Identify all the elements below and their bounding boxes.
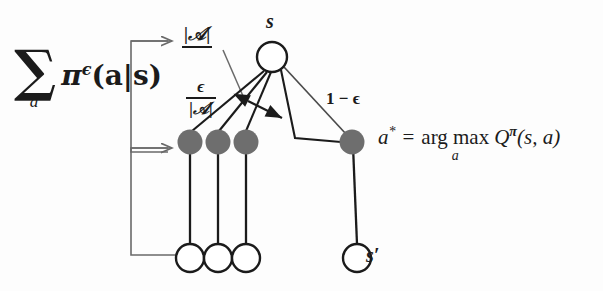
action-node-1[interactable] xyxy=(178,130,203,155)
argmax-operator-label: arg max xyxy=(421,128,489,148)
sigma-icon: ∑ xyxy=(14,48,54,94)
fraction-bar xyxy=(182,46,212,48)
label-epsilon-over-cardinality: ϵ |𝒜| xyxy=(186,78,216,119)
a-symbol: a xyxy=(378,125,389,149)
label-next-state: s′ xyxy=(366,244,379,267)
next-state-node-1[interactable] xyxy=(176,244,204,272)
action-node-3[interactable] xyxy=(234,130,259,155)
pi-arguments: (a|s) xyxy=(91,59,162,92)
q-arguments: (s, a) xyxy=(517,125,560,149)
sum-subscript: a xyxy=(30,95,39,109)
argmax-formula: a* = arg max a Qπ(s, a) xyxy=(378,124,560,162)
leader-line-cardinality xyxy=(223,50,243,96)
state-node[interactable] xyxy=(257,42,287,72)
a-star-term: a* xyxy=(378,124,396,150)
q-superscript-pi: π xyxy=(509,124,517,139)
policy-term: πϵ(a|s) xyxy=(61,59,162,92)
epsilon-numerator: ϵ xyxy=(195,78,206,97)
diagram-canvas: ∑ a πϵ(a|s) |𝒜| ϵ |𝒜| 1 − ϵ s s′ a* = ar… xyxy=(0,0,603,291)
action-node-greedy[interactable] xyxy=(340,130,365,155)
argmax-subscript: a xyxy=(452,149,459,162)
summation-operator: ∑ a xyxy=(14,48,54,109)
label-one-minus-epsilon: 1 − ϵ xyxy=(326,89,360,109)
pi-superscript: ϵ xyxy=(82,60,92,79)
equals-sign: = xyxy=(403,125,415,150)
cardinality-symbol: |𝒜| xyxy=(182,24,212,46)
sum-expression: ∑ a πϵ(a|s) xyxy=(14,48,162,109)
lower-bracket xyxy=(131,148,175,255)
next-state-node-3[interactable] xyxy=(232,244,260,272)
q-function-term: Qπ(s, a) xyxy=(494,124,560,150)
edges-actions-to-next-states xyxy=(190,146,357,244)
pi-symbol: π xyxy=(61,59,82,92)
q-symbol: Q xyxy=(494,125,509,149)
argmax-operator: arg max a xyxy=(421,128,489,162)
label-action-set-cardinality: |𝒜| xyxy=(182,24,212,48)
next-state-node-2[interactable] xyxy=(204,244,232,272)
label-state: s xyxy=(266,10,274,33)
action-node-2[interactable] xyxy=(206,130,231,155)
star-superscript: * xyxy=(389,124,396,139)
cardinality-denominator: |𝒜| xyxy=(187,99,215,118)
